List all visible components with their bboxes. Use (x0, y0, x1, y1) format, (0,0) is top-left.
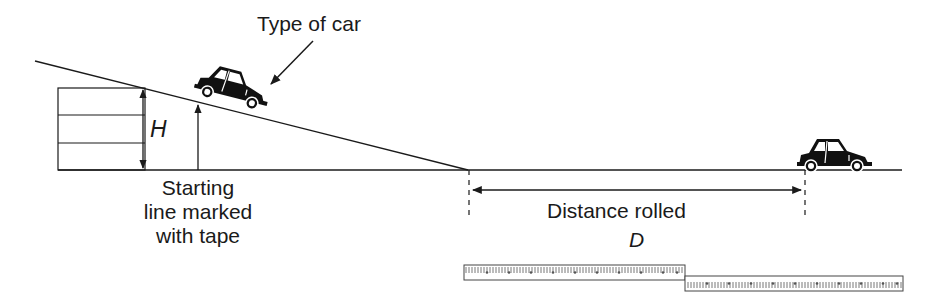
car-pointer-arrow (271, 41, 313, 84)
starting-line-label: Starting line marked with tape (138, 176, 258, 248)
car-on-ramp-icon (192, 61, 273, 112)
experiment-diagram (0, 0, 938, 301)
starting-line-text-1: Starting (138, 176, 258, 200)
car-stopped-icon (797, 139, 872, 172)
meter-stick-2 (685, 276, 903, 291)
distance-label: Distance rolled (547, 199, 686, 223)
distance-var-label: D (629, 228, 644, 252)
meter-stick-1 (464, 265, 685, 280)
car-type-label: Type of car (257, 12, 361, 36)
starting-line-text-3: with tape (138, 224, 258, 248)
starting-line-text-2: line marked (138, 200, 258, 224)
stacked-blocks (58, 88, 145, 170)
height-label: H (150, 117, 167, 141)
